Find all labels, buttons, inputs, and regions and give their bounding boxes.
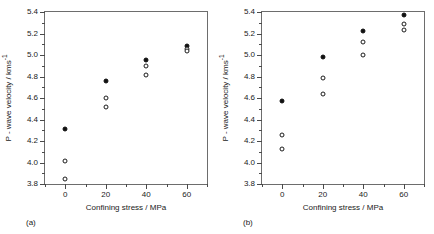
y-axis-minor-tick-b (259, 23, 262, 24)
data-point-b (401, 28, 406, 33)
y-axis-tick-label-b: 5.0 (244, 51, 255, 59)
y-axis-tick-b (257, 98, 262, 99)
data-point-a (184, 48, 189, 53)
y-axis-tick-a (40, 34, 45, 35)
y-axis-tick-a (40, 141, 45, 142)
x-axis-tick-a (187, 184, 188, 189)
data-point-b (361, 53, 366, 58)
x-axis-tick-b (404, 184, 405, 189)
data-point-a (103, 96, 108, 101)
y-axis-minor-tick-a (42, 109, 45, 110)
data-point-a (144, 58, 149, 63)
y-axis-tick-label-a: 4.6 (27, 94, 38, 102)
data-point-a (144, 73, 149, 78)
y-axis-tick-label-a: 3.8 (27, 180, 38, 188)
y-axis-minor-tick-a (42, 23, 45, 24)
y-axis-tick-b (257, 55, 262, 56)
y-axis-minor-tick-b (259, 109, 262, 110)
data-point-a (144, 63, 149, 68)
data-point-b (320, 91, 325, 96)
data-point-b (320, 75, 325, 80)
data-point-a (63, 127, 68, 132)
y-axis-tick-label-a: 4.8 (27, 73, 38, 81)
x-axis-minor-tick-a (45, 184, 46, 187)
y-axis-title-superscript-b: -1 (218, 55, 225, 61)
x-axis-minor-tick-a (207, 184, 208, 187)
x-axis-title-b: Confining stress / MPa (303, 204, 383, 212)
y-axis-tick-a (40, 98, 45, 99)
y-axis-minor-tick-b (259, 152, 262, 153)
y-axis-tick-label-b: 4.8 (244, 73, 255, 81)
panel-caption-a: (a) (26, 219, 36, 227)
y-axis-tick-a (40, 163, 45, 164)
y-axis-tick-b (257, 120, 262, 121)
x-axis-tick-label-a: 60 (182, 191, 191, 199)
data-point-b (320, 55, 325, 60)
y-axis-tick-a (40, 120, 45, 121)
y-axis-title-text-b: P - wave velocity / kms (221, 60, 230, 141)
x-axis-minor-tick-a (86, 184, 87, 187)
y-axis-tick-label-a: 4.4 (27, 116, 38, 124)
data-point-b (401, 21, 406, 26)
y-axis-minor-tick-b (259, 130, 262, 131)
y-axis-tick-b (257, 77, 262, 78)
y-axis-title-b: P - wave velocity / kms-1 (222, 55, 230, 142)
y-axis-tick-label-b: 5.4 (244, 8, 255, 16)
plot-area-a: 3.84.04.24.44.64.85.05.25.40204060 (44, 11, 208, 185)
x-axis-minor-tick-b (424, 184, 425, 187)
x-axis-tick-label-b: 0 (280, 191, 284, 199)
x-axis-tick-label-a: 0 (63, 191, 67, 199)
x-axis-minor-tick-b (262, 184, 263, 187)
y-axis-minor-tick-b (259, 44, 262, 45)
y-axis-minor-tick-b (259, 66, 262, 67)
y-axis-tick-label-b: 3.8 (244, 180, 255, 188)
y-axis-tick-label-a: 5.4 (27, 8, 38, 16)
data-point-b (401, 13, 406, 18)
y-axis-tick-b (257, 163, 262, 164)
y-axis-tick-label-b: 5.2 (244, 30, 255, 38)
x-axis-tick-a (65, 184, 66, 189)
data-point-a (103, 104, 108, 109)
chart-panel-a: P - wave velocity / kms-1 3.84.04.24.44.… (0, 0, 217, 234)
y-axis-minor-tick-a (42, 66, 45, 67)
y-axis-minor-tick-a (42, 173, 45, 174)
x-axis-tick-label-b: 60 (399, 191, 408, 199)
y-axis-tick-a (40, 77, 45, 78)
x-axis-title-a: Confining stress / MPa (86, 204, 166, 212)
x-axis-tick-b (282, 184, 283, 189)
y-axis-tick-b (257, 12, 262, 13)
y-axis-tick-label-a: 4.2 (27, 137, 38, 145)
x-axis-tick-label-b: 40 (359, 191, 368, 199)
y-axis-minor-tick-a (42, 130, 45, 131)
x-axis-minor-tick-b (343, 184, 344, 187)
chart-panel-b: P - wave velocity / kms-1 3.84.04.24.44.… (217, 0, 434, 234)
y-axis-tick-label-a: 4.0 (27, 159, 38, 167)
y-axis-tick-b (257, 34, 262, 35)
x-axis-minor-tick-b (303, 184, 304, 187)
data-point-b (280, 99, 285, 104)
figure-container: P - wave velocity / kms-1 3.84.04.24.44.… (0, 0, 434, 234)
x-axis-tick-a (106, 184, 107, 189)
data-point-b (361, 29, 366, 34)
y-axis-tick-a (40, 12, 45, 13)
data-point-a (103, 78, 108, 83)
y-axis-tick-b (257, 141, 262, 142)
y-axis-tick-label-a: 5.2 (27, 30, 38, 38)
x-axis-tick-label-a: 20 (101, 191, 110, 199)
y-axis-tick-label-b: 4.6 (244, 94, 255, 102)
data-point-a (63, 176, 68, 181)
data-point-a (63, 159, 68, 164)
y-axis-minor-tick-a (42, 44, 45, 45)
x-axis-tick-label-b: 20 (318, 191, 327, 199)
plot-area-b: 3.84.04.24.44.64.85.05.25.40204060 (261, 11, 425, 185)
x-axis-tick-a (146, 184, 147, 189)
data-point-b (280, 146, 285, 151)
x-axis-minor-tick-a (126, 184, 127, 187)
y-axis-tick-label-a: 5.0 (27, 51, 38, 59)
x-axis-minor-tick-a (167, 184, 168, 187)
y-axis-tick-label-b: 4.4 (244, 116, 255, 124)
y-axis-minor-tick-b (259, 87, 262, 88)
x-axis-minor-tick-b (384, 184, 385, 187)
y-axis-title-text-a: P - wave velocity / kms (4, 60, 13, 141)
y-axis-title-superscript-a: -1 (1, 55, 8, 61)
